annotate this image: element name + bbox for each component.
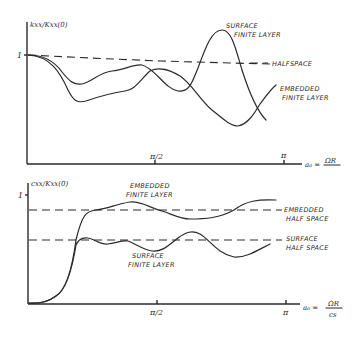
top-x-axis-label-num: ΩR: [324, 157, 337, 165]
top-x-tick-label-pi: π: [280, 151, 287, 160]
top-surface-finite-layer-curve: [28, 30, 266, 120]
top-x-tick-label-half-pi: π/2: [149, 152, 163, 161]
bottom-y-tick-label-1: 1: [18, 191, 23, 200]
bottom-annotation-embedded-half-2: HALF SPACE: [286, 215, 329, 223]
bottom-y-axis-label: cxx/Kxx(0): [31, 180, 68, 188]
top-annotation-surface-1: SURFACE: [226, 22, 259, 30]
bottom-annotation-embedded-finite-1: EMBEDDED: [130, 182, 170, 190]
top-y-tick-label-1: 1: [17, 51, 22, 60]
top-chart: kxx/Kxx(0) 1 π/2 π a₀ = ΩR SURFACE FINIT…: [17, 21, 340, 169]
bottom-annotation-embedded-finite-2: FINITE LAYER: [126, 191, 173, 199]
top-annotation-embedded-2: FINITE LAYER: [282, 94, 329, 102]
bottom-x-axis-label-den: cs: [329, 311, 337, 319]
top-annotation-embedded-1: EMBEDDED: [280, 85, 320, 93]
top-annotation-surface-2: FINITE LAYER: [234, 31, 281, 39]
bottom-x-tick-label-pi: π: [282, 308, 289, 317]
bottom-x-axis-label-num: ΩR: [327, 300, 340, 308]
bottom-annotation-surface-finite-1: SURFACE: [132, 252, 165, 260]
bottom-annotation-embedded-half-1: EMBEDDED: [284, 206, 324, 214]
bottom-x-axis-label-lhs: a₀ =: [303, 304, 318, 312]
bottom-annotation-surface-finite-2: FINITE LAYER: [128, 261, 175, 269]
bottom-annotation-surface-half-1: SURFACE: [286, 235, 319, 243]
figure: kxx/Kxx(0) 1 π/2 π a₀ = ΩR SURFACE FINIT…: [0, 0, 363, 338]
bottom-annotation-surface-half-2: HALF SPACE: [286, 244, 329, 252]
top-y-axis-label: kxx/Kxx(0): [30, 21, 68, 29]
top-embedded-finite-layer-curve: [28, 55, 276, 126]
top-x-axis-label-lhs: a₀ =: [305, 161, 320, 169]
top-annotation-halfspace: HALFSPACE: [272, 60, 313, 68]
top-halfspace-curve: [28, 55, 270, 64]
bottom-chart: cxx/Kxx(0) 1 π/2 π a₀ = ΩR cs EMBEDDED F…: [18, 180, 342, 319]
bottom-x-tick-label-half-pi: π/2: [149, 308, 163, 317]
